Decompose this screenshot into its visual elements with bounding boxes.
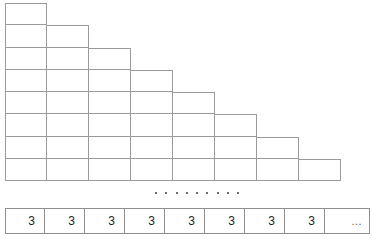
staircase-cell — [215, 114, 257, 136]
ellipsis-dot — [206, 192, 208, 194]
value-row: 3 3 3 3 3 3 3 3 … — [5, 208, 370, 234]
staircase-cell — [5, 48, 47, 70]
staircase-row — [5, 25, 341, 47]
ellipsis-dots-row — [155, 190, 239, 196]
staircase-cell — [5, 137, 47, 159]
staircase-cell — [131, 92, 173, 114]
staircase-cell — [215, 159, 257, 181]
value-cell: 3 — [85, 208, 125, 234]
staircase-cell — [131, 114, 173, 136]
staircase-cell — [257, 137, 299, 159]
staircase-row — [5, 137, 341, 159]
staircase-cell — [257, 159, 299, 181]
value-cell: 3 — [5, 208, 45, 234]
staircase-cell — [89, 137, 131, 159]
ellipsis-dot — [176, 192, 178, 194]
value-cell: 3 — [205, 208, 245, 234]
staircase-cell — [299, 159, 341, 181]
ellipsis-dot — [217, 192, 219, 194]
staircase-cell — [47, 114, 89, 136]
staircase-cell — [215, 137, 257, 159]
value-cell: 3 — [45, 208, 85, 234]
staircase-cell — [5, 92, 47, 114]
staircase-row — [5, 159, 341, 181]
staircase-cell — [47, 25, 89, 47]
ellipsis-dot — [227, 192, 229, 194]
value-cell: 3 — [245, 208, 285, 234]
staircase-cell — [5, 25, 47, 47]
ellipsis-dot — [186, 192, 188, 194]
staircase-cell — [131, 159, 173, 181]
staircase-row — [5, 48, 341, 70]
staircase-row — [5, 92, 341, 114]
ellipsis-dot — [155, 192, 157, 194]
value-cell: 3 — [285, 208, 325, 234]
staircase-cell — [173, 114, 215, 136]
staircase-cell — [5, 70, 47, 92]
value-cell-continuation: … — [325, 208, 370, 234]
staircase-cell — [89, 92, 131, 114]
staircase-cell — [89, 48, 131, 70]
ellipsis-dot — [165, 192, 167, 194]
ellipsis-dot — [237, 192, 239, 194]
ellipsis-dot — [196, 192, 198, 194]
staircase-grid — [5, 3, 341, 181]
staircase-cell — [47, 92, 89, 114]
value-cell: 3 — [165, 208, 205, 234]
staircase-row — [5, 70, 341, 92]
staircase-cell — [89, 70, 131, 92]
value-cell: 3 — [125, 208, 165, 234]
staircase-cell — [89, 159, 131, 181]
staircase-cell — [47, 137, 89, 159]
staircase-cell — [47, 70, 89, 92]
staircase-cell — [47, 159, 89, 181]
staircase-cell — [89, 114, 131, 136]
staircase-cell — [131, 70, 173, 92]
staircase-row — [5, 3, 341, 25]
staircase-cell — [173, 92, 215, 114]
staircase-cell — [5, 3, 47, 25]
staircase-cell — [5, 159, 47, 181]
staircase-cell — [173, 137, 215, 159]
staircase-cell — [5, 114, 47, 136]
staircase-cell — [173, 159, 215, 181]
staircase-cell — [131, 137, 173, 159]
staircase-row — [5, 114, 341, 136]
staircase-cell — [47, 48, 89, 70]
